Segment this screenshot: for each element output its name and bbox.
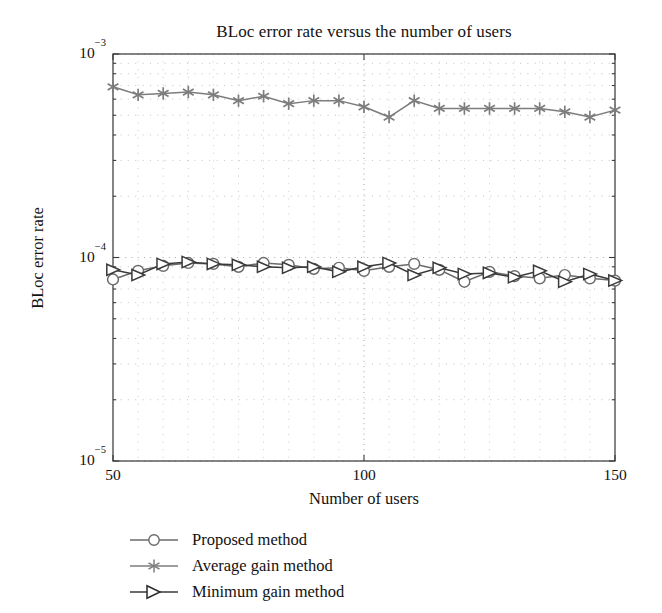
data-point-marker (108, 274, 119, 285)
legend-marker-asterisk-icon (128, 556, 180, 576)
legend-label-average-gain: Average gain method (192, 556, 333, 576)
data-point-marker (384, 111, 395, 123)
data-point-marker (585, 111, 596, 123)
legend-item-average-gain: Average gain method (128, 553, 508, 579)
data-point-marker (108, 81, 119, 93)
legend-marker-triangle-icon (128, 582, 180, 602)
data-point-marker (359, 101, 370, 113)
data-point-marker (408, 269, 421, 280)
legend-label-minimum-gain: Minimum gain method (192, 582, 344, 602)
chart-figure: BLoc error rate versus the number of use… (0, 0, 662, 613)
plot-area (0, 0, 662, 613)
data-point-marker (409, 259, 420, 270)
legend-marker-circle-icon (128, 530, 180, 550)
data-point-marker (409, 94, 420, 106)
data-point-marker (610, 104, 621, 116)
legend-label-proposed: Proposed method (192, 530, 307, 550)
chart-legend: Proposed method Average gain method Mini… (128, 527, 508, 605)
legend-item-proposed: Proposed method (128, 527, 508, 553)
legend-item-minimum-gain: Minimum gain method (128, 579, 508, 605)
